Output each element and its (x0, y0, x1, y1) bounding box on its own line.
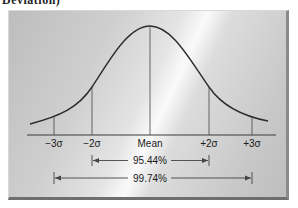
bell-curve (30, 26, 268, 124)
bell-curve-chart: −3σ −2σ Mean +2σ +3σ 95.44% 99.74% (0, 0, 298, 208)
tick-plus2: +2σ (200, 138, 218, 149)
range-2sigma-label: 95.44% (133, 155, 167, 166)
tick-plus3: +3σ (243, 138, 261, 149)
range-3sigma-label: 99.74% (133, 173, 167, 184)
tick-minus3: −3σ (45, 138, 63, 149)
tick-minus2: −2σ (83, 138, 101, 149)
tick-mean: Mean (137, 138, 162, 149)
